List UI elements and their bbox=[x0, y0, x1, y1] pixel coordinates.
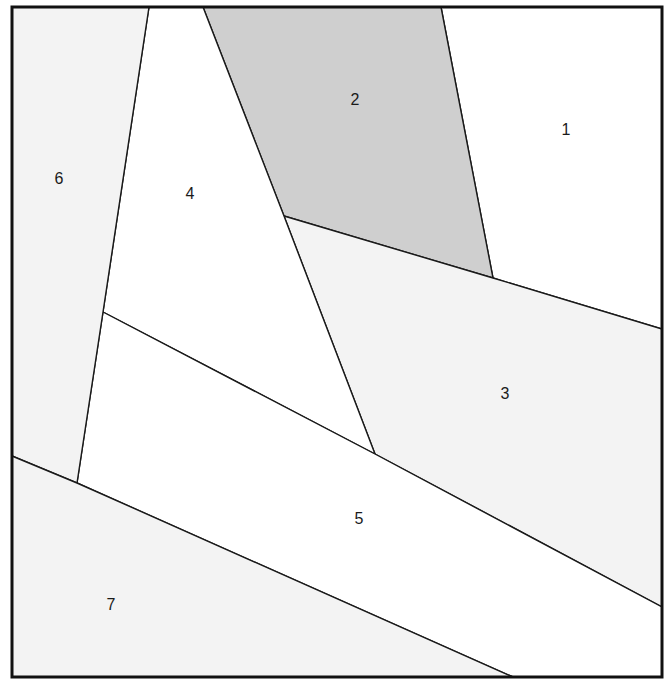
regions-layer bbox=[12, 7, 662, 677]
diagram-canvas bbox=[0, 0, 671, 691]
